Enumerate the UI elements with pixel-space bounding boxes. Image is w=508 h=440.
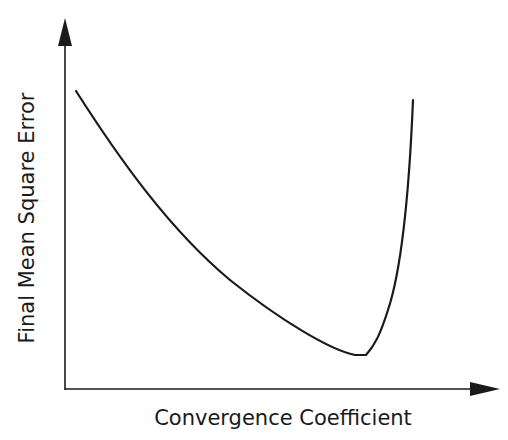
x-axis-label: Convergence Coefficient bbox=[154, 406, 412, 430]
x-axis-arrow-icon bbox=[470, 382, 500, 396]
mse-curve bbox=[76, 91, 413, 355]
chart: Convergence Coefficient Final Mean Squar… bbox=[0, 0, 508, 440]
y-axis-label: Final Mean Square Error bbox=[15, 92, 39, 343]
y-axis-arrow-icon bbox=[58, 18, 72, 46]
